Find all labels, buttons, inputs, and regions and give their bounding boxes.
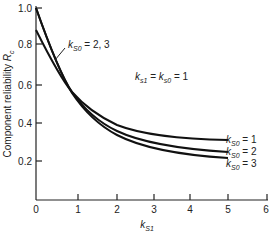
svg-text:0.4: 0.4 [18, 118, 32, 129]
x-axis-title: kS1 [140, 219, 154, 232]
x-tick-labels: 0 1 2 3 4 5 6 [33, 204, 269, 215]
pointer-line [55, 48, 65, 60]
svg-text:4: 4 [187, 204, 193, 215]
svg-text:0.8: 0.8 [18, 39, 32, 50]
svg-text:6: 6 [263, 204, 269, 215]
y-tick-labels: 1.0 0.8 0.6 0.4 0.2 [18, 3, 32, 167]
x-ticks [78, 194, 267, 200]
svg-text:1: 1 [75, 204, 81, 215]
y-axis-title: Component reliability Rc [2, 50, 15, 157]
svg-text:2: 2 [114, 204, 120, 215]
svg-text:5: 5 [225, 204, 231, 215]
parameter-annotation: ks1 = ks0 = 1 [135, 71, 189, 84]
pointer-label: kS0 = 2, 3 [68, 39, 110, 52]
svg-text:3: 3 [151, 204, 157, 215]
legend-ks0-3: kS0 = 3 [226, 158, 257, 171]
svg-text:0: 0 [33, 204, 39, 215]
svg-text:0.6: 0.6 [18, 80, 32, 91]
curve-ks0-1 [36, 30, 228, 140]
svg-text:0.2: 0.2 [18, 156, 32, 167]
svg-text:1.0: 1.0 [18, 3, 32, 14]
reliability-chart: 1.0 0.8 0.6 0.4 0.2 0 1 2 3 4 5 6 kS0 = … [0, 0, 272, 233]
